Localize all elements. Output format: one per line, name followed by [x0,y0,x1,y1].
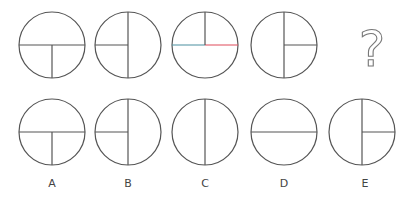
option-a-figure[interactable] [19,99,85,165]
option-a-label: A [48,177,56,190]
option-b-label: B [124,177,132,190]
sequence-figure-2 [95,12,161,78]
option-c-label: C [201,177,209,190]
sequence-figure-4 [251,12,317,78]
sequence-figure-3 [172,12,238,78]
option-b-figure[interactable] [95,99,161,165]
option-d-label: D [280,177,288,190]
option-e-label: E [362,177,369,190]
option-d-figure[interactable] [251,99,317,165]
sequence-figure-1 [19,12,85,78]
question-mark-icon: ? [359,20,386,78]
option-c-figure[interactable] [172,99,238,165]
puzzle-diagram: ? [0,0,413,201]
option-e-figure[interactable] [329,99,395,165]
